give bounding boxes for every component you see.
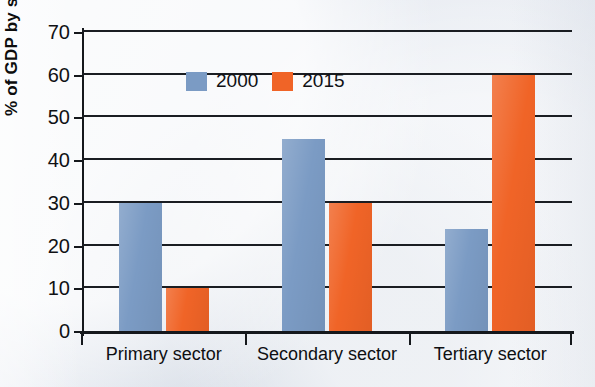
x-axis-line	[80, 331, 574, 334]
y-tick-label-10: 10	[48, 277, 70, 300]
chart-page: % of GDP by sector 010203040506070 20002…	[0, 0, 595, 387]
category-label-3: Tertiary sector	[409, 344, 572, 365]
category-label-2: Secondary sector	[245, 344, 408, 365]
legend-swatch-2000	[186, 72, 207, 91]
y-tick-label-30: 30	[48, 191, 70, 214]
bar-2000-primary-sector	[119, 203, 162, 331]
y-tick-label-60: 60	[48, 63, 70, 86]
legend-swatch-2015	[272, 72, 293, 91]
bar-2000-tertiary-sector	[445, 229, 488, 332]
legend-label-2015: 2015	[302, 70, 344, 92]
bar-2015-secondary-sector	[329, 203, 372, 331]
bar-2015-tertiary-sector	[492, 75, 535, 331]
y-tick-label-50: 50	[48, 106, 70, 129]
plot-area: 010203040506070 20002015	[82, 30, 572, 334]
y-tick-label-40: 40	[48, 149, 70, 172]
bar-2000-secondary-sector	[282, 139, 325, 331]
category-label-1: Primary sector	[82, 344, 245, 365]
y-axis-label: % of GDP by sector	[2, 0, 32, 116]
y-tick-label-70: 70	[48, 21, 70, 44]
y-tick-mark-0	[74, 331, 83, 333]
chart-legend: 20002015	[186, 70, 345, 92]
y-tick-label-0: 0	[59, 320, 70, 343]
bar-2015-primary-sector	[166, 288, 209, 331]
legend-label-2000: 2000	[216, 70, 258, 92]
bar-group-3	[409, 30, 572, 331]
legend-item-2015[interactable]: 2015	[272, 70, 344, 92]
y-tick-label-20: 20	[48, 234, 70, 257]
legend-item-2000[interactable]: 2000	[186, 70, 258, 92]
